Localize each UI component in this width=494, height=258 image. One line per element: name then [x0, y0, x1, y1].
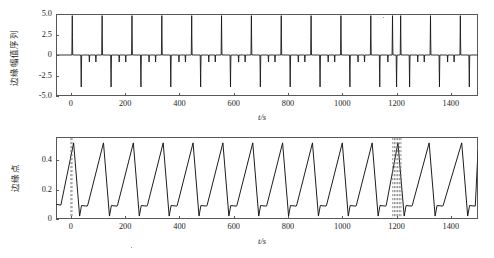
trace-group [56, 138, 478, 218]
x-tick-label: 400 [159, 222, 199, 231]
x-tick-mark [179, 93, 180, 96]
x-tick-mark [125, 93, 126, 96]
x-tick-mark [288, 93, 289, 96]
y-tick-label: 0 [16, 214, 52, 223]
x-tick-mark [288, 216, 289, 219]
x-tick-label: 1000 [322, 222, 362, 231]
scan-speck [383, 17, 384, 18]
x-tick-label: 1400 [431, 99, 471, 108]
y-tick-label: 0.4 [16, 155, 52, 164]
x-tick-label: 0 [51, 222, 91, 231]
x-tick-label: 0 [51, 99, 91, 108]
x-tick-label: 800 [268, 222, 308, 231]
y-tick-mark [56, 55, 59, 56]
y-tick-mark [56, 219, 59, 220]
x-tick-label: 1200 [377, 222, 417, 231]
y-tick-mark [56, 190, 59, 191]
y-tick-label: 0 [16, 50, 52, 59]
x-tick-label: 400 [159, 99, 199, 108]
x-tick-mark [342, 216, 343, 219]
figure-canvas: 边缘幅值序列 t/s 边缘点 t/s 020040060080010001200… [0, 0, 494, 258]
y-tick-label: -5.0 [16, 91, 52, 100]
y-tick-label: 2.5 [16, 30, 52, 39]
y-tick-mark [56, 35, 59, 36]
x-tick-label: 800 [268, 99, 308, 108]
x-tick-mark [234, 216, 235, 219]
x-tick-label: 1400 [431, 222, 471, 231]
scan-speck [131, 247, 132, 248]
x-tick-mark [179, 216, 180, 219]
x-tick-label: 600 [214, 222, 254, 231]
x-tick-mark [397, 216, 398, 219]
y-tick-label: -2.5 [16, 71, 52, 80]
y-tick-label: 0.2 [16, 185, 52, 194]
x-tick-mark [71, 93, 72, 96]
x-tick-label: 1200 [377, 99, 417, 108]
x-tick-mark [397, 93, 398, 96]
edge-points-trace [56, 143, 478, 216]
y-tick-mark [56, 14, 59, 15]
x-tick-mark [451, 216, 452, 219]
x-tick-label: 200 [105, 222, 145, 231]
y-tick-mark [56, 96, 59, 97]
x-tick-mark [71, 216, 72, 219]
y-tick-mark [56, 76, 59, 77]
y-tick-mark [56, 160, 59, 161]
x-tick-label: 600 [214, 99, 254, 108]
x-tick-mark [451, 93, 452, 96]
x-tick-label: 1000 [322, 99, 362, 108]
y-tick-label: 5.0 [16, 9, 52, 18]
x-tick-label: 200 [105, 99, 145, 108]
x-tick-mark [234, 93, 235, 96]
x-axis-label-bottom: t/s [258, 236, 266, 246]
x-tick-mark [125, 216, 126, 219]
x-tick-mark [342, 93, 343, 96]
plot-area-bottom [0, 0, 494, 258]
